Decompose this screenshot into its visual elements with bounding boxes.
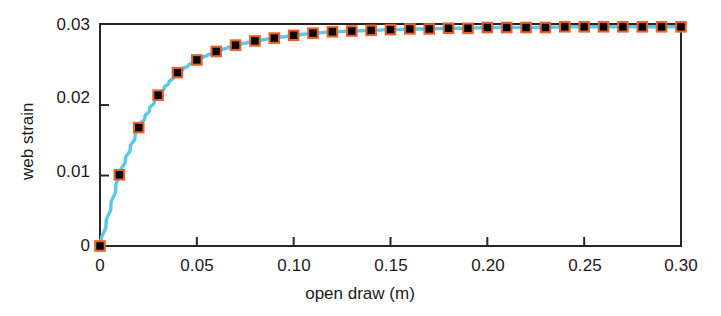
data-point-marker — [366, 26, 376, 36]
data-point-marker — [618, 22, 628, 32]
data-point-marker — [115, 170, 125, 180]
ytick-label-0.03: 0.03 — [10, 15, 90, 35]
data-point-marker — [579, 22, 589, 32]
xtick-label-0.10: 0.10 — [277, 256, 311, 276]
xtick-label-0.25: 0.25 — [568, 256, 602, 276]
chart-figure: 0 0.01 0.02 0.03 0 0.05 0.10 0.15 0.20 0… — [0, 0, 721, 316]
data-point-marker — [541, 23, 551, 33]
data-point-marker — [95, 241, 105, 251]
xtick-label-0.20: 0.20 — [471, 256, 505, 276]
series-line — [101, 27, 681, 246]
data-point-marker — [502, 23, 512, 33]
data-point-marker — [270, 33, 280, 43]
xtick-label-0.15: 0.15 — [374, 256, 408, 276]
axes-box — [100, 24, 681, 246]
data-point-marker — [463, 23, 473, 33]
data-point-marker — [521, 23, 531, 33]
y-axis-title: web strain — [18, 103, 38, 180]
data-point-marker — [657, 22, 667, 32]
data-point-marker — [289, 31, 299, 40]
data-point-marker — [250, 36, 260, 46]
data-point-marker — [599, 22, 609, 32]
data-point-marker — [638, 22, 648, 32]
data-point-marker — [560, 22, 570, 32]
tick-marks — [100, 105, 584, 246]
data-point-marker — [483, 23, 493, 33]
xtick-label-0.05: 0.05 — [180, 256, 214, 276]
data-point-marker — [386, 25, 396, 35]
data-series-web-strain — [95, 22, 686, 251]
data-point-marker — [153, 90, 163, 100]
ytick-label-0: 0 — [10, 236, 90, 256]
data-point-marker — [173, 68, 183, 78]
data-point-marker — [231, 40, 241, 50]
x-axis-title: open draw (m) — [305, 284, 415, 304]
data-point-marker — [444, 23, 454, 33]
series-markers — [95, 22, 686, 251]
web-strain-vs-open-draw-plot — [0, 0, 721, 316]
xtick-label-0: 0 — [95, 256, 105, 276]
data-point-marker — [676, 22, 686, 32]
data-point-marker — [424, 24, 434, 34]
xtick-label-0.30: 0.30 — [664, 256, 698, 276]
data-point-marker — [405, 24, 415, 34]
data-point-marker — [347, 26, 357, 36]
data-point-marker — [328, 27, 338, 37]
axes-frame — [100, 24, 681, 246]
data-point-marker — [134, 123, 144, 133]
data-point-marker — [192, 55, 202, 65]
data-point-marker — [308, 28, 318, 38]
data-point-marker — [211, 47, 221, 57]
